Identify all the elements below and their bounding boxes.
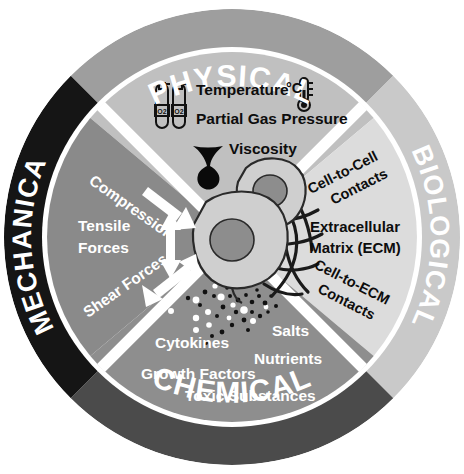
gas-cylinder-label-2: O2 [174,108,183,115]
physical-label-temperature-unit: °C [286,80,303,96]
mechanical-label-tensile-line2: Forces [78,239,129,256]
cell-icon [193,192,288,289]
physical-label-temperature: Temperature [196,81,289,98]
bio-line-2: Matrix (ECM) [309,239,401,256]
physical-label-partial-gas-pressure: Partial Gas Pressure [196,110,348,127]
diagram-root: O2 O2 [0,0,464,474]
chemical-label-growth-factors: Growth Factors [141,365,256,382]
chemical-label-salts: Salts [272,322,309,339]
chemical-label-toxic-substances: Toxic Substances [185,387,316,404]
microenvironment-wheel: O2 O2 [0,0,464,474]
mechanical-label-tensile-line1: Tensile [78,217,131,234]
chemical-label-nutrients: Nutrients [254,350,322,367]
chemical-label-cytokines: Cytokines [155,334,229,351]
physical-label-viscosity: Viscosity [229,140,297,157]
bio-line-1: Extracellular [310,218,400,235]
